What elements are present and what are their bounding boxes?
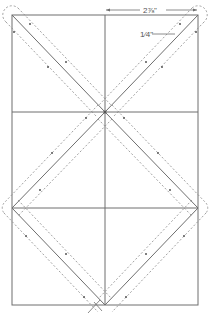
- bottom-cut-marks: [88, 300, 102, 313]
- quilt-cutting-diagram: 2⅞" 1⁄4": [0, 0, 209, 316]
- width-dimension: 2⅞": [106, 6, 197, 15]
- width-label: 2⅞": [143, 6, 157, 15]
- seam-label: 1⁄4": [140, 30, 153, 39]
